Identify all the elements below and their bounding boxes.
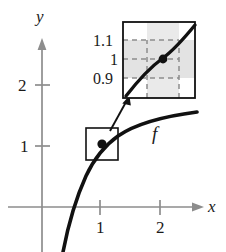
figure-local-linearity: y x 2 1 1 2 f 1.1 1 0.9 — [0, 0, 226, 252]
x-axis-label: x — [208, 198, 216, 215]
magnified-view — [123, 22, 195, 98]
x-axis-arrowhead — [192, 203, 204, 212]
point-of-tangency-dot — [97, 139, 106, 148]
inset-y-label-0-9: 0.9 — [93, 71, 113, 87]
curve-f — [63, 112, 197, 252]
inset-y-label-1: 1 — [110, 52, 118, 68]
y-axis-arrowhead — [38, 38, 47, 50]
y-axis-label: y — [36, 8, 44, 25]
inset-y-label-1-1: 1.1 — [93, 33, 113, 49]
zoom-arrow — [110, 96, 131, 132]
figure-canvas — [0, 0, 226, 252]
x-tick-label-1: 1 — [96, 219, 105, 236]
curve-label-f: f — [152, 124, 157, 143]
x-tick-label-2: 2 — [156, 219, 165, 236]
y-tick-label-1: 1 — [20, 138, 29, 155]
y-tick-label-2: 2 — [18, 77, 27, 94]
inset-point-dot — [159, 55, 168, 64]
